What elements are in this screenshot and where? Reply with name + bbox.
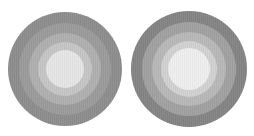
inner-disc [168,48,210,90]
inner-disc [46,50,84,88]
